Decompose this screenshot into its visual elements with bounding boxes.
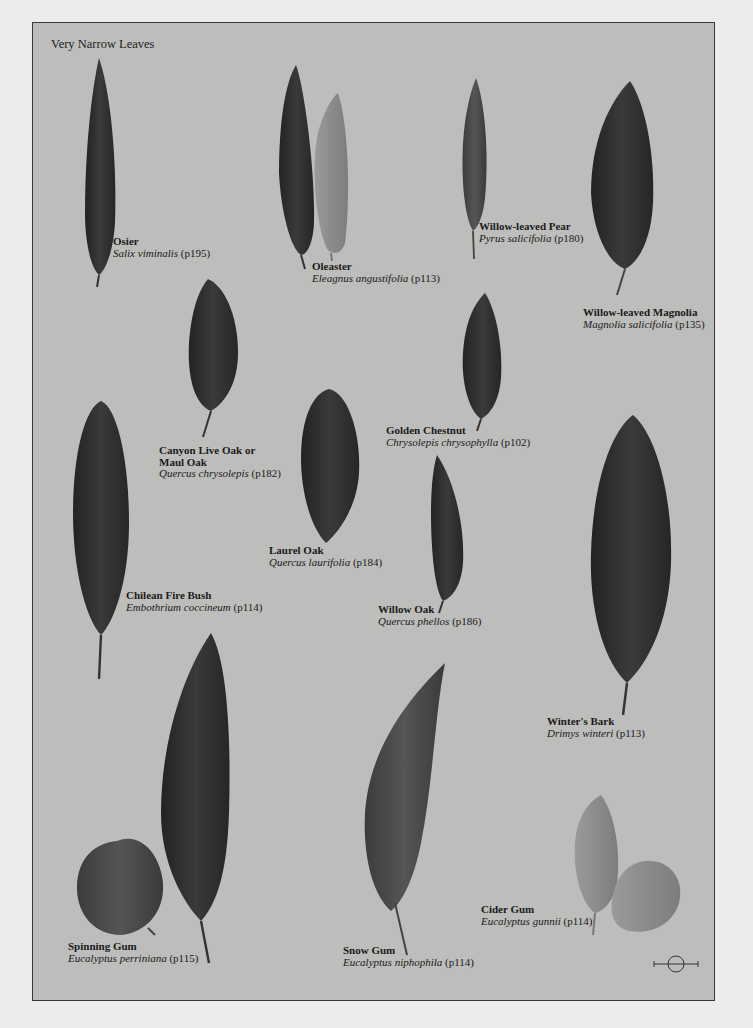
- golden-chestnut-leaf-icon: [463, 293, 502, 431]
- laurel-oak-leaf-icon: [301, 389, 359, 543]
- label-oleaster: Oleaster Eleagnus angustifolia (p113): [312, 261, 440, 284]
- leaf-illustrations: [33, 23, 715, 1001]
- canyon-live-oak-leaf-icon: [189, 279, 238, 437]
- label-willow-leaved-pear: Willow-leaved Pear Pyrus salicifolia (p1…: [479, 221, 584, 244]
- label-laurel-oak: Laurel Oak Quercus laurifolia (p184): [269, 545, 382, 568]
- label-chilean-fire-bush: Chilean Fire Bush Embothrium coccineum (…: [126, 590, 262, 613]
- label-canyon-live-oak: Canyon Live Oak or Maul Oak Quercus chry…: [159, 445, 281, 480]
- leaf-plate: Very Narrow Leaves: [32, 22, 715, 1001]
- willow-oak-leaf-icon: [431, 455, 463, 613]
- label-cider-gum: Cider Gum Eucalyptus gunnii (p114): [481, 904, 592, 927]
- spinning-gum-leaf-icon: [77, 633, 230, 963]
- label-willow-leaved-magnolia: Willow-leaved Magnolia Magnolia salicifo…: [583, 307, 705, 330]
- label-willow-oak: Willow Oak Quercus phellos (p186): [378, 604, 481, 627]
- osier-leaf-icon: [85, 58, 115, 287]
- label-winters-bark: Winter's Bark Drimys winteri (p113): [547, 716, 645, 739]
- label-golden-chestnut: Golden Chestnut Chrysolepis chrysophylla…: [386, 425, 530, 448]
- oleaster-leaf-icon: [279, 65, 348, 269]
- snow-gum-leaf-icon: [365, 663, 445, 955]
- chilean-fire-bush-leaf-icon: [73, 401, 129, 679]
- willow-leaved-magnolia-leaf-icon: [591, 81, 653, 295]
- scale-bar-circle-icon: [653, 955, 699, 973]
- label-osier: Osier Salix viminalis (p195): [113, 236, 210, 259]
- winters-bark-leaf-icon: [591, 415, 671, 715]
- label-snow-gum: Snow Gum Eucalyptus niphophila (p114): [343, 945, 474, 968]
- label-spinning-gum: Spinning Gum Eucalyptus perriniana (p115…: [68, 941, 198, 964]
